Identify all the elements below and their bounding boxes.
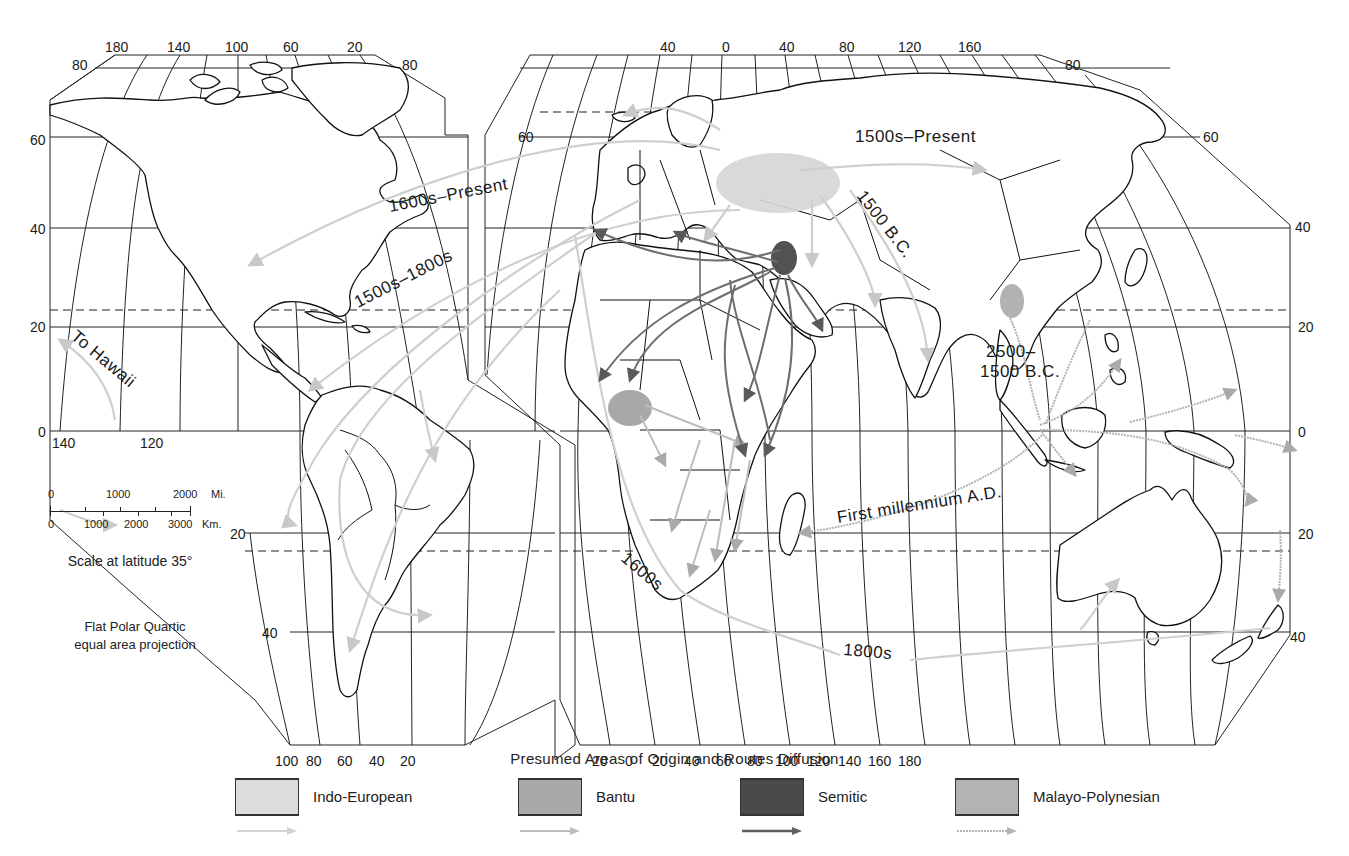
scale-tick	[155, 507, 156, 512]
scale-km-1000: 1000	[84, 518, 108, 530]
origin-indo-european	[716, 153, 840, 213]
svg-text:40: 40	[1290, 629, 1306, 645]
svg-text:80: 80	[402, 57, 418, 73]
svg-text:40: 40	[779, 39, 795, 55]
svg-text:0: 0	[1298, 424, 1306, 440]
scale-tick	[85, 507, 86, 512]
svg-text:80: 80	[1065, 57, 1081, 73]
scale-tick	[138, 511, 139, 516]
arrow-icon	[237, 826, 297, 836]
label-mp-date-a: 2500–	[986, 342, 1036, 361]
origin-malayo-polynesian	[1000, 284, 1024, 318]
scale-caption: Scale at latitude 35°	[40, 552, 220, 570]
svg-text:40: 40	[1295, 219, 1311, 235]
svg-text:120: 120	[140, 435, 164, 451]
scale-mi-1000: 1000	[106, 488, 130, 500]
arrow-icon	[520, 826, 580, 836]
svg-text:20: 20	[347, 39, 363, 55]
scale-km-3000: 3000	[168, 518, 192, 530]
svg-text:80: 80	[72, 57, 88, 73]
americas-lobe	[50, 55, 575, 760]
svg-text:0: 0	[38, 424, 46, 440]
swatch-malayo-polynesian	[955, 778, 1019, 816]
svg-text:80: 80	[839, 39, 855, 55]
projection-line-2: equal area projection	[50, 636, 220, 654]
svg-text:40: 40	[30, 221, 46, 237]
legend-label: Malayo-Polynesian	[1033, 788, 1160, 805]
svg-text:160: 160	[958, 39, 982, 55]
scale-mi-unit: Mi.	[211, 488, 226, 500]
label-ie-east: 1500s–Present	[855, 127, 976, 146]
swatch-semitic	[740, 778, 804, 816]
world-map: 180 140 100 60 20 40 0 40 80 120 160 80 …	[0, 0, 1349, 856]
arrow-icon	[957, 826, 1017, 836]
scale-tick	[103, 511, 104, 516]
svg-text:60: 60	[30, 132, 46, 148]
legend-label: Bantu	[596, 788, 635, 805]
scale-mi-0: 0	[48, 488, 54, 500]
scale-tick	[190, 506, 191, 516]
scale-tick	[50, 506, 51, 516]
legend-label: Indo-European	[313, 788, 412, 805]
projection-line-1: Flat Polar Quartic	[50, 618, 220, 636]
scale-mi-2000: 2000	[173, 488, 197, 500]
legend-title: Presumed Areas of Origin and Routes Diff…	[0, 750, 1349, 767]
svg-text:100: 100	[225, 39, 249, 55]
svg-text:20: 20	[1298, 319, 1314, 335]
scale-km-0: 0	[48, 518, 54, 530]
svg-text:20: 20	[30, 319, 46, 335]
svg-text:40: 40	[262, 625, 278, 641]
scale-tick	[171, 511, 172, 516]
scale-tick	[120, 507, 121, 512]
svg-text:60: 60	[283, 39, 299, 55]
svg-text:40: 40	[660, 39, 676, 55]
svg-text:140: 140	[52, 435, 76, 451]
scale-km-2000: 2000	[124, 518, 148, 530]
label-ie-north-america: 1600s–Present	[387, 174, 509, 216]
origin-bantu	[608, 390, 652, 426]
projection-note: Flat Polar Quartic equal area projection	[50, 618, 220, 654]
svg-text:60: 60	[1203, 129, 1219, 145]
scale-bar: 0 1000 2000 Mi. 0 1000 2000 3000 Km.	[48, 488, 228, 538]
svg-text:20: 20	[1298, 526, 1314, 542]
australia	[1057, 486, 1222, 625]
svg-text:0: 0	[722, 39, 730, 55]
legend-label: Semitic	[818, 788, 867, 805]
swatch-bantu	[518, 778, 582, 816]
scale-km-unit: Km.	[202, 518, 222, 530]
svg-text:20: 20	[230, 526, 246, 542]
svg-text:180: 180	[105, 39, 129, 55]
svg-text:60: 60	[518, 129, 534, 145]
origin-semitic	[771, 241, 797, 275]
arrow-icon	[742, 826, 802, 836]
svg-text:140: 140	[167, 39, 191, 55]
label-to-hawaii: To Hawaii	[67, 327, 139, 392]
label-ie-australia: 1800s	[843, 640, 893, 663]
label-mp-date-b: 1500 B.C.	[980, 362, 1060, 381]
svg-text:120: 120	[898, 39, 922, 55]
north-america	[50, 92, 428, 373]
swatch-indo-european	[235, 778, 299, 816]
